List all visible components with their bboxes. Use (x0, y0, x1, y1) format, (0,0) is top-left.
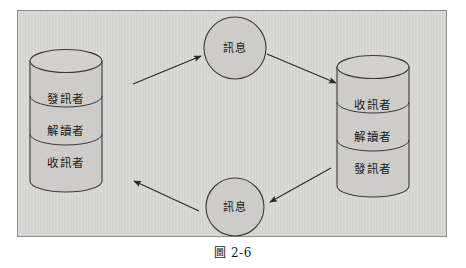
arrow-top-message-to-right (267, 54, 336, 83)
right-segment-label-3: 發訊者 (321, 164, 425, 176)
top-message-label: 訊息 (205, 43, 265, 54)
left-segment-label-1: 發訊者 (14, 94, 118, 106)
right-segment-label-1: 收訊者 (321, 100, 425, 112)
arrow-left-to-top-message (133, 56, 201, 84)
left-segment-label-2: 解讀者 (14, 126, 118, 138)
right-segment-label-2: 解讀者 (321, 132, 425, 144)
figure-caption: 圖 2-6 (0, 243, 466, 260)
left-cylinder-shape (30, 50, 102, 193)
figure-container: 發訊者 解讀者 收訊者 收訊者 解讀者 發訊者 訊息 訊息 圖 2-6 (0, 0, 466, 268)
left-segment-label-3: 收訊者 (14, 158, 118, 170)
arrow-bottom-message-to-left (134, 181, 199, 211)
bottom-message-label: 訊息 (205, 202, 265, 213)
